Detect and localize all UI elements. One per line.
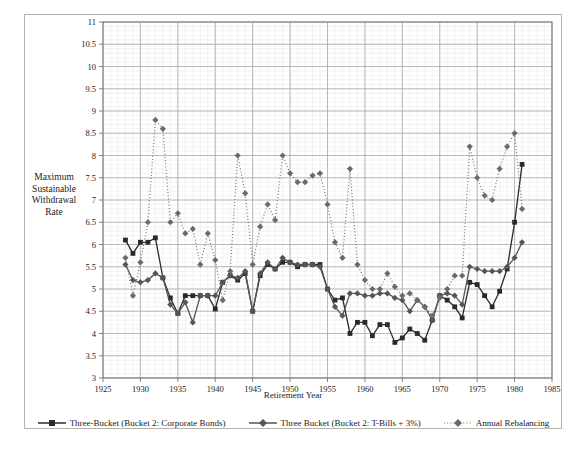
y-tick-label: 3 xyxy=(92,373,96,383)
data-point-marker xyxy=(467,264,473,270)
data-point-marker xyxy=(302,179,308,185)
data-point-marker xyxy=(362,277,368,283)
legend-item-2[interactable]: Annual Rebalancing xyxy=(443,417,550,429)
data-point-marker xyxy=(497,289,502,294)
series-1 xyxy=(122,239,525,325)
y-tick-label: 6 xyxy=(92,240,96,250)
data-point-marker xyxy=(369,286,375,292)
data-point-marker xyxy=(385,322,390,327)
data-point-marker xyxy=(167,219,173,225)
y-tick-label: 10 xyxy=(88,62,97,72)
data-point-marker xyxy=(130,277,136,283)
chart-figure: 33.544.555.566.577.588.599.51010.5111925… xyxy=(0,0,586,451)
legend-marker xyxy=(454,419,462,427)
data-point-marker xyxy=(452,304,457,309)
data-point-marker xyxy=(392,295,398,301)
chart-canvas: 33.544.555.566.577.588.599.51010.5111925… xyxy=(0,0,586,451)
data-point-marker xyxy=(444,286,450,292)
data-point-marker xyxy=(467,280,472,285)
data-point-marker xyxy=(235,152,241,158)
data-point-marker xyxy=(497,268,503,274)
y-tick-label: 5 xyxy=(92,284,96,294)
data-point-marker xyxy=(145,219,151,225)
y-axis-title: Maximum Sustainable Withdrawal Rate xyxy=(18,172,90,218)
data-point-marker xyxy=(384,290,390,296)
data-point-marker xyxy=(407,327,412,332)
y-tick-label: 4.5 xyxy=(85,306,96,316)
data-point-marker xyxy=(474,175,480,181)
y-axis-title-line-2: Sustainable xyxy=(18,184,90,196)
data-point-marker xyxy=(460,316,465,321)
y-tick-label: 8.5 xyxy=(85,128,96,138)
data-point-marker xyxy=(392,340,397,345)
legend-label: Three Bucket (Bucket 2: T-Bills + 3%) xyxy=(281,418,421,428)
data-point-marker xyxy=(497,166,503,172)
data-point-marker xyxy=(377,286,383,292)
legend-label: Annual Rebalancing xyxy=(476,418,550,428)
data-point-marker xyxy=(287,170,293,176)
axis-ticks: 33.544.555.566.577.588.599.51010.5111925… xyxy=(81,17,560,394)
data-point-marker xyxy=(370,333,375,338)
data-point-marker xyxy=(257,224,263,230)
data-point-marker xyxy=(504,144,510,150)
y-tick-label: 6.5 xyxy=(85,217,96,227)
y-axis-title-line-3: Withdrawal xyxy=(18,195,90,207)
y-tick-label: 9.5 xyxy=(85,84,96,94)
data-point-marker xyxy=(445,298,450,303)
y-tick-label: 9 xyxy=(92,106,96,116)
y-tick-label: 11 xyxy=(88,17,96,27)
data-point-marker xyxy=(265,201,271,207)
data-point-marker xyxy=(467,144,473,150)
data-point-marker xyxy=(347,166,353,172)
y-tick-label: 4 xyxy=(92,329,97,339)
data-point-marker xyxy=(511,130,517,136)
data-point-marker xyxy=(482,293,487,298)
data-point-marker xyxy=(339,255,345,261)
data-point-marker xyxy=(138,240,143,245)
legend-swatch-icon xyxy=(37,417,67,429)
data-point-marker xyxy=(459,273,465,279)
legend-swatch-icon xyxy=(443,417,473,429)
y-tick-label: 5.5 xyxy=(85,262,96,272)
legend-swatch-icon xyxy=(248,417,278,429)
data-point-marker xyxy=(452,273,458,279)
data-point-marker xyxy=(363,320,368,325)
data-point-marker xyxy=(146,240,151,245)
data-point-marker xyxy=(122,255,128,261)
x-axis-title: Retirement Year xyxy=(0,390,586,400)
y-axis-title-line-4: Rate xyxy=(18,207,90,219)
data-point-marker xyxy=(482,192,488,198)
data-point-marker xyxy=(324,201,330,207)
data-point-marker xyxy=(489,197,495,203)
data-point-marker xyxy=(377,322,382,327)
y-axis-title-line-1: Maximum xyxy=(18,172,90,184)
data-point-marker xyxy=(183,293,188,298)
data-point-marker xyxy=(400,336,405,341)
data-point-marker xyxy=(354,290,360,296)
data-point-marker xyxy=(340,296,345,301)
chart-legend: Three-Bucket (Bucket 2: Corporate Bonds)… xyxy=(0,412,586,434)
y-tick-label: 8 xyxy=(92,151,96,161)
data-point-marker xyxy=(415,331,420,336)
data-point-marker xyxy=(348,331,353,336)
series-line xyxy=(126,242,523,322)
data-point-marker xyxy=(482,268,488,274)
legend-marker xyxy=(259,419,267,427)
legend-marker xyxy=(49,420,55,426)
legend-item-0[interactable]: Three-Bucket (Bucket 2: Corporate Bonds) xyxy=(37,417,226,429)
data-point-marker xyxy=(190,293,195,298)
data-point-marker xyxy=(490,304,495,309)
data-point-marker xyxy=(152,117,158,123)
legend-item-1[interactable]: Three Bucket (Bucket 2: T-Bills + 3%) xyxy=(248,417,421,429)
data-point-marker xyxy=(280,152,286,158)
data-point-marker xyxy=(213,307,218,312)
data-point-marker xyxy=(347,290,353,296)
data-point-marker xyxy=(519,206,525,212)
data-point-marker xyxy=(422,338,427,343)
data-point-marker xyxy=(137,259,143,265)
data-point-marker xyxy=(317,170,323,176)
data-point-marker xyxy=(123,238,128,243)
y-tick-label: 3.5 xyxy=(85,351,96,361)
y-tick-label: 7 xyxy=(92,195,96,205)
data-point-marker xyxy=(131,251,136,256)
